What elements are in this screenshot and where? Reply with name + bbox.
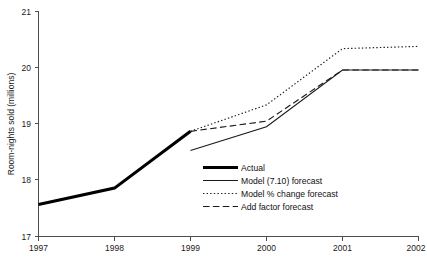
chart-container: 21 20 19 18 17 1997 1998 1999 2000 2001 … [0,0,427,266]
legend-label-actual: Actual [241,163,265,173]
x-tick-label-1999: 1999 [181,243,200,253]
x-tick-label-1997: 1997 [29,243,48,253]
x-tick-label-1998: 1998 [105,243,124,253]
y-axis-ticks [35,12,39,237]
line-chart: 21 20 19 18 17 1997 1998 1999 2000 2001 … [0,0,427,266]
legend-label-add-factor-forecast: Add factor forecast [241,202,314,212]
legend-label-pct-change-forecast: Model % change forecast [241,189,339,199]
y-axis-title: Room-nights sold (millions) [6,73,16,176]
y-tick-label-19: 19 [22,119,32,129]
x-tick-label-2002: 2002 [407,243,426,253]
x-tick-label-2001: 2001 [333,243,352,253]
y-tick-label-20: 20 [22,63,32,73]
series-add-factor-forecast [191,70,419,131]
y-tick-label-21: 21 [22,7,32,17]
series-model-710-forecast [191,70,419,150]
chart-legend: Actual Model (7.10) forecast Model % cha… [203,163,339,212]
series-actual [39,131,191,204]
series-model-pct-change-forecast [191,46,419,131]
legend-label-model-forecast: Model (7.10) forecast [241,176,323,186]
x-axis-ticks [39,237,419,241]
x-tick-label-2000: 2000 [257,243,276,253]
y-tick-label-18: 18 [22,175,32,185]
y-tick-label-17: 17 [22,232,32,242]
